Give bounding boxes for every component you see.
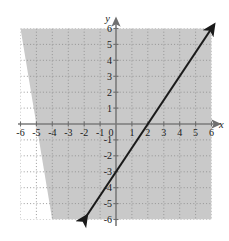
ytick-label-3: 3 xyxy=(107,71,112,82)
ytick-label--5: -5 xyxy=(104,198,112,209)
xtick-label--3: -3 xyxy=(64,127,72,138)
ytick-label-1: 1 xyxy=(107,103,112,114)
ytick-label-4: 4 xyxy=(107,55,112,66)
xtick-label-4: 4 xyxy=(177,127,182,138)
xtick-label--2: -2 xyxy=(80,127,88,138)
xtick-label--6: -6 xyxy=(16,127,24,138)
xtick-label-6: 6 xyxy=(209,127,214,138)
ytick-label-2: 2 xyxy=(107,87,112,98)
graph-page: -6 -5 -4 -3 -2 -1 0 1 2 3 4 5 6 6 5 4 3 … xyxy=(0,0,229,241)
xtick-label-5: 5 xyxy=(193,127,198,138)
coordinate-plane-chart: -6 -5 -4 -3 -2 -1 0 1 2 3 4 5 6 6 5 4 3 … xyxy=(0,0,229,241)
y-axis-label: y xyxy=(104,13,110,24)
ytick-label-6: 6 xyxy=(107,23,112,34)
ytick-label--4: -4 xyxy=(104,182,112,193)
xtick-label--4: -4 xyxy=(48,127,56,138)
xtick-label-2: 2 xyxy=(145,127,150,138)
x-axis-label: x xyxy=(218,119,224,130)
ytick-label-5: 5 xyxy=(107,39,112,50)
ytick-label--6: -6 xyxy=(104,214,112,225)
xtick-label-1: 1 xyxy=(129,127,134,138)
ytick-label--2: -2 xyxy=(104,150,112,161)
xtick-label-3: 3 xyxy=(161,127,166,138)
xtick-label--5: -5 xyxy=(32,127,40,138)
ytick-label--1: -1 xyxy=(104,134,112,145)
ytick-label--3: -3 xyxy=(104,166,112,177)
